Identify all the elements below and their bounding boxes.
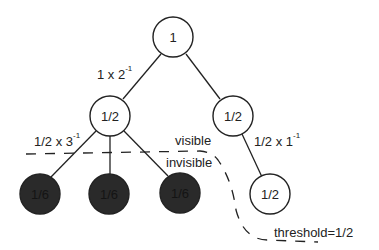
node-right-leaf: 1/2 xyxy=(250,174,290,214)
edge-label-root: 1 x 2-1 xyxy=(97,64,133,82)
node-right-mid-label: 1/2 xyxy=(224,109,242,124)
node-left-mid: 1/2 xyxy=(90,96,130,136)
node-leaf-2: 1/6 xyxy=(89,174,129,214)
node-leaf-3-label: 1/6 xyxy=(171,186,189,201)
invisible-label: invisible xyxy=(166,155,212,170)
node-left-mid-label: 1/2 xyxy=(101,109,119,124)
node-right-leaf-label: 1/2 xyxy=(261,187,279,202)
threshold-label: threshold=1/2 xyxy=(274,225,353,240)
node-root: 1 xyxy=(153,17,193,57)
node-leaf-2-label: 1/6 xyxy=(100,187,118,202)
node-root-label: 1 xyxy=(169,30,176,45)
tree-diagram: 1 1/2 1/2 1/6 1/6 1/6 1/2 1 x 2-1 1/2 x … xyxy=(0,0,379,250)
edge-root-right xyxy=(186,54,220,99)
edge-label-right-mid: 1/2 x 1-1 xyxy=(254,131,301,149)
node-leaf-1-label: 1/6 xyxy=(31,187,49,202)
node-leaf-3: 1/6 xyxy=(160,173,200,213)
node-leaf-1: 1/6 xyxy=(20,174,60,214)
edge-root-left xyxy=(123,54,161,99)
node-right-mid: 1/2 xyxy=(213,96,253,136)
visible-label: visible xyxy=(175,133,211,148)
edge-left-leaf3 xyxy=(124,131,168,176)
edge-label-left-mid: 1/2 x 3-1 xyxy=(34,131,81,149)
